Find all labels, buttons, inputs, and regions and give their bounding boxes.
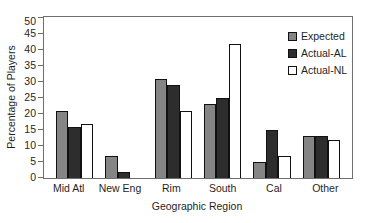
bar-actual-al-rim [167,85,180,178]
bar-actual-al-new-eng [118,172,131,178]
bar-actual-nl-rim [180,111,193,178]
x-label-rim: Rim [146,182,197,194]
x-label-other: Other [300,182,351,194]
y-tick-mark-10 [38,145,43,146]
bar-expected-south [204,104,217,178]
y-tick-mark-35 [38,65,43,66]
legend-label-actual-al: Actual-AL [301,48,347,58]
y-tick-label-30: 30 [7,76,36,86]
x-label-mid-atl: Mid Atl [43,182,94,194]
legend-item-expected: Expected [288,31,347,41]
y-tick-label-5: 5 [7,156,36,166]
bar-group-cal [253,130,291,178]
bar-chart: Percentage of Players 051015202530354045… [0,0,372,223]
legend-label-expected: Expected [301,31,345,41]
bar-group-south [204,44,242,178]
bar-actual-nl-south [229,44,242,178]
y-tick-mark-30 [38,81,43,82]
y-tick-label-45: 45 [7,28,36,38]
y-tick-label-25: 25 [7,92,36,102]
y-tick-label-40: 40 [7,44,36,54]
y-tick-label-10: 10 [7,140,36,150]
y-tick-label-50: 50 [7,16,36,26]
y-tick-label-20: 20 [7,108,36,118]
bar-group-rim [155,79,193,178]
y-tick-label-15: 15 [7,124,36,134]
bar-expected-cal [253,162,266,178]
y-tick-mark-40 [38,49,43,50]
bar-group-mid-atl [56,111,94,178]
bar-group-other [303,136,341,178]
x-label-cal: Cal [248,182,299,194]
y-tick-mark-25 [38,97,43,98]
bar-expected-new-eng [105,156,118,178]
legend-item-actual-al: Actual-AL [288,48,347,58]
y-tick-mark-0 [38,177,43,178]
y-tick-mark-20 [38,113,43,114]
bar-expected-mid-atl [56,111,69,178]
legend-swatch-expected [288,32,297,41]
bar-actual-al-south [216,98,229,178]
legend-swatch-actual-al [288,49,297,58]
bar-actual-al-other [315,136,328,178]
legend-swatch-actual-nl [288,66,297,75]
y-tick-mark-45 [38,33,43,34]
y-tick-label-35: 35 [7,60,36,70]
x-label-new-eng: New Eng [94,182,145,194]
bar-expected-other [303,136,316,178]
legend: ExpectedActual-ALActual-NL [288,31,347,75]
y-tick-mark-15 [38,129,43,130]
bar-expected-rim [155,79,168,178]
plot-area: 05101520253035404550 ExpectedActual-ALAc… [43,16,353,179]
y-tick-label-0: 0 [7,172,36,182]
legend-item-actual-nl: Actual-NL [288,65,347,75]
x-axis-category-labels: Mid AtlNew EngRimSouthCalOther [43,182,351,194]
y-tick-mark-50 [38,17,43,18]
bar-actual-nl-cal [278,156,291,178]
bar-actual-al-mid-atl [68,127,81,178]
y-tick-mark-5 [38,161,43,162]
bar-actual-nl-other [328,140,341,178]
x-label-south: South [197,182,248,194]
bar-actual-al-cal [266,130,279,178]
bar-actual-nl-mid-atl [81,124,94,178]
legend-label-actual-nl: Actual-NL [301,65,347,75]
x-axis-title: Geographic Region [43,200,351,212]
bar-group-new-eng [105,156,143,178]
